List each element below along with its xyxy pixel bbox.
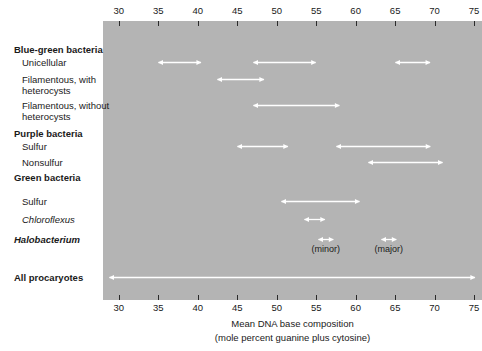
row-label-5: Sulfur bbox=[22, 141, 114, 152]
range-arrow-row6-0 bbox=[368, 159, 443, 166]
annotation-minor: (minor) bbox=[302, 244, 350, 254]
axis-tick-label-bottom-75: 75 bbox=[463, 303, 482, 313]
axis-tick-bottom-65 bbox=[395, 295, 396, 300]
range-arrow-row5-0 bbox=[237, 143, 288, 150]
range-arrow-row10-1 bbox=[381, 236, 397, 243]
axis-tick-top-40 bbox=[198, 21, 199, 26]
figure-container: 3030353540404545505055556060656570707575… bbox=[0, 0, 482, 351]
axis-tick-label-bottom-35: 35 bbox=[147, 303, 169, 313]
row-label-4: Purple bacteria bbox=[14, 128, 106, 139]
axis-tick-label-top-60: 60 bbox=[345, 6, 367, 16]
annotation-major: (major) bbox=[365, 244, 413, 254]
range-arrow-row10-0 bbox=[318, 236, 334, 243]
range-arrow-row8-0 bbox=[281, 198, 360, 205]
axis-tick-label-top-45: 45 bbox=[226, 6, 248, 16]
row-label-9: Chloroflexus bbox=[22, 214, 114, 225]
axis-tick-label-top-35: 35 bbox=[147, 6, 169, 16]
row-label-7: Green bacteria bbox=[14, 172, 106, 183]
axis-tick-label-bottom-60: 60 bbox=[345, 303, 367, 313]
axis-tick-label-top-55: 55 bbox=[305, 6, 327, 16]
axis-tick-label-bottom-40: 40 bbox=[187, 303, 209, 313]
axis-tick-label-top-50: 50 bbox=[266, 6, 288, 16]
row-label-3: Filamentous, without heterocysts bbox=[22, 100, 114, 122]
axis-tick-label-top-40: 40 bbox=[187, 6, 209, 16]
range-arrow-row9-0 bbox=[304, 216, 325, 223]
range-arrow-row2-0 bbox=[217, 76, 264, 83]
axis-tick-label-bottom-50: 50 bbox=[266, 303, 288, 313]
axis-tick-bottom-35 bbox=[158, 295, 159, 300]
axis-tick-top-65 bbox=[395, 21, 396, 26]
axis-tick-top-70 bbox=[435, 21, 436, 26]
axis-tick-top-35 bbox=[158, 21, 159, 26]
axis-tick-bottom-60 bbox=[356, 295, 357, 300]
range-arrow-row5-1 bbox=[336, 143, 431, 150]
axis-tick-bottom-45 bbox=[237, 295, 238, 300]
axis-tick-top-50 bbox=[277, 21, 278, 26]
axis-tick-bottom-50 bbox=[277, 295, 278, 300]
axis-tick-label-bottom-55: 55 bbox=[305, 303, 327, 313]
range-arrow-row1-0 bbox=[158, 59, 201, 66]
range-arrow-row11-0 bbox=[109, 274, 475, 281]
axis-tick-top-55 bbox=[316, 21, 317, 26]
row-label-8: Sulfur bbox=[22, 196, 114, 207]
axis-tick-bottom-75 bbox=[474, 295, 475, 300]
axis-tick-label-bottom-45: 45 bbox=[226, 303, 248, 313]
axis-tick-bottom-40 bbox=[198, 295, 199, 300]
axis-tick-label-top-65: 65 bbox=[384, 6, 406, 16]
axis-tick-label-top-75: 75 bbox=[463, 6, 482, 16]
axis-tick-label-top-30: 30 bbox=[108, 6, 130, 16]
axis-tick-top-60 bbox=[356, 21, 357, 26]
axis-tick-top-75 bbox=[474, 21, 475, 26]
axis-tick-bottom-70 bbox=[435, 295, 436, 300]
axis-tick-bottom-55 bbox=[316, 295, 317, 300]
row-label-10: Halobacterium bbox=[14, 234, 106, 245]
row-label-6: Nonsulfur bbox=[22, 157, 114, 168]
axis-tick-label-bottom-70: 70 bbox=[424, 303, 446, 313]
row-label-1: Unicellular bbox=[22, 57, 114, 68]
axis-tick-bottom-30 bbox=[119, 295, 120, 300]
axis-tick-label-top-70: 70 bbox=[424, 6, 446, 16]
range-arrow-row3-0 bbox=[253, 102, 340, 109]
row-label-0: Blue-green bacteria bbox=[14, 44, 106, 55]
axis-tick-top-30 bbox=[119, 21, 120, 26]
row-label-2: Filamentous, with heterocysts bbox=[22, 74, 114, 96]
range-arrow-row1-2 bbox=[395, 59, 431, 66]
x-axis-label-line1: Mean DNA base composition bbox=[103, 318, 482, 330]
axis-tick-label-bottom-65: 65 bbox=[384, 303, 406, 313]
x-axis-label-line2: (mole percent guanine plus cytosine) bbox=[103, 332, 482, 344]
row-label-11: All procaryotes bbox=[14, 272, 106, 283]
axis-tick-label-bottom-30: 30 bbox=[108, 303, 130, 313]
range-arrow-row1-1 bbox=[253, 59, 316, 66]
axis-tick-top-45 bbox=[237, 21, 238, 26]
